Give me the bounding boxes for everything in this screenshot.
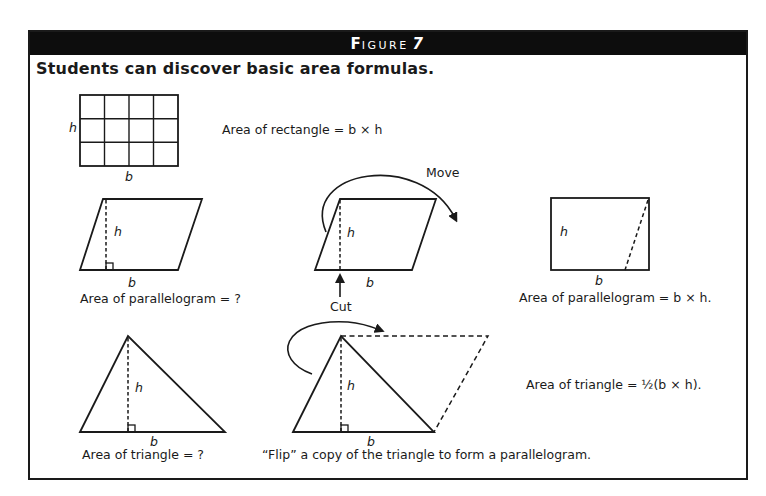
triangle-formula: Area of triangle = ½(b × h). [526, 377, 702, 392]
rearranged-b-label: b [595, 273, 603, 288]
flip-triangle-h-label: h [347, 378, 355, 393]
move-label: Move [426, 165, 460, 180]
parallelogram-b-label: b [128, 275, 136, 290]
triangle-shape [80, 336, 225, 432]
rectangle-formula: Area of rectangle = b × h [222, 122, 382, 137]
triangle-h-label: h [135, 380, 143, 395]
flip-caption: “Flip” a copy of the triangle to form a … [262, 447, 591, 462]
flip-arrow-icon [288, 322, 380, 374]
triangle-caption: Area of triangle = ? [82, 447, 204, 462]
parallelogram-caption: Area of parallelogram = ? [80, 291, 241, 306]
rearranged-h-label: h [560, 224, 568, 239]
parallelogram-shape [80, 199, 202, 270]
parallelogram-cut-shape [315, 175, 455, 297]
cut-parallelogram-b-label: b [366, 275, 374, 290]
cut-label: Cut [330, 299, 352, 314]
diagram-canvas [0, 0, 766, 496]
cut-parallelogram-h-label: h [347, 225, 355, 240]
rectangle-grid [80, 95, 178, 166]
triangle-flip-shape [288, 322, 488, 432]
rectangle-h-label: h [69, 120, 77, 135]
rearranged-caption: Area of parallelogram = b × h. [519, 290, 712, 305]
rectangle-b-label: b [125, 169, 133, 184]
parallelogram-h-label: h [114, 224, 122, 239]
